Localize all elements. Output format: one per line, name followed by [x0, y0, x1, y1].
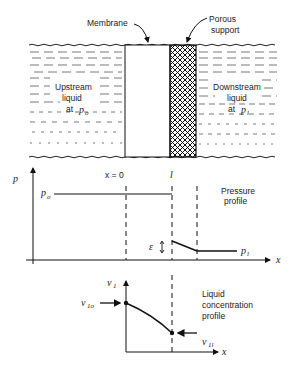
upstream-pressure-symbol: p	[78, 104, 84, 115]
pl-sub: l	[247, 250, 249, 258]
v1o-point	[124, 301, 128, 305]
pressure-title-2: profile	[224, 196, 247, 206]
support-label: support	[211, 25, 240, 35]
support-pointer-arrow	[187, 18, 207, 42]
x0-label: x = 0	[105, 170, 124, 180]
p-axis-label: p	[12, 173, 18, 184]
pressure-line-downstream	[172, 241, 237, 251]
pressure-title-1: Pressure	[221, 186, 255, 196]
epsilon-label: ε	[149, 241, 153, 252]
porous-support	[170, 45, 196, 157]
v1-axis-sub: 1	[113, 282, 117, 290]
po-label: p	[40, 187, 46, 198]
conc-title-1: Liquid	[202, 289, 225, 299]
downstream-label-2: liquid	[227, 93, 247, 103]
v1o-sub: 1o	[87, 302, 95, 310]
downstream-pressure-symbol: p	[240, 104, 246, 115]
v1-axis-label: v	[107, 277, 112, 288]
downstream-label-1: Downstream	[213, 82, 261, 92]
upstream-label-3: at	[66, 104, 74, 114]
top-panel: Membrane Porous support Upstream liquid …	[29, 14, 277, 158]
concentration-curve	[126, 303, 172, 333]
upstream-pressure-sub: o	[85, 109, 89, 117]
x-axis-label: x	[275, 254, 281, 265]
membrane-pointer-arrow	[134, 24, 148, 42]
pressure-profile-plot: p x x = 0 l p o p l ε Pressure profile	[12, 168, 281, 265]
membrane-diagram: Membrane Porous support Upstream liquid …	[0, 0, 294, 367]
upstream-label-2: liquid	[62, 93, 82, 103]
v1l-label: v	[202, 336, 207, 347]
v1l-sub: 1l	[208, 341, 214, 349]
l-label: l	[170, 169, 173, 180]
conc-title-2: concentration	[202, 300, 253, 310]
downstream-pressure-sub: l	[247, 109, 249, 117]
membrane	[125, 45, 170, 157]
x-axis-2-label: x	[221, 346, 227, 357]
v1l-point	[170, 331, 174, 335]
v1o-label: v	[81, 297, 86, 308]
po-sub: o	[47, 193, 51, 201]
pl-label: p	[240, 245, 246, 256]
porous-label: Porous	[209, 14, 236, 24]
upstream-label-1: Upstream	[55, 82, 92, 92]
membrane-label: Membrane	[87, 18, 128, 28]
concentration-profile-plot: v 1 x v 1o v 1l Liquid concentration pro…	[81, 275, 253, 357]
conc-title-3: profile	[202, 311, 225, 321]
downstream-label-3: at	[228, 104, 236, 114]
